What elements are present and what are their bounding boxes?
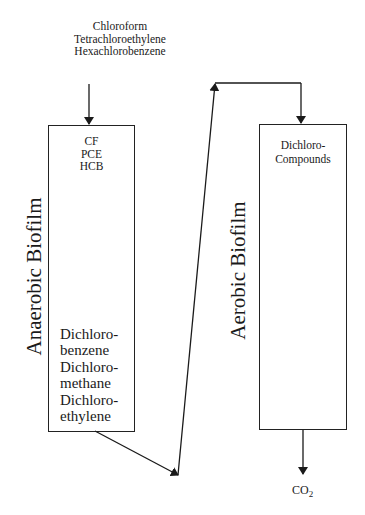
flow-arrows — [0, 0, 365, 515]
arrow-transfer-up — [178, 84, 215, 475]
arrow-anaerobic-out — [95, 431, 178, 475]
